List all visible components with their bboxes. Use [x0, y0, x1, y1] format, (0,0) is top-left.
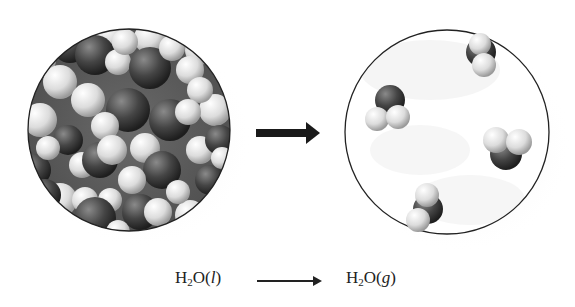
- long-arrow-right-icon: [257, 280, 320, 282]
- arrow-right-icon: [256, 122, 320, 144]
- phase-change-illustration: [0, 0, 575, 307]
- water-vapor-panel: [345, 30, 572, 253]
- liquid-water-panel: [19, 20, 252, 248]
- reactant-formula: H2O(l): [175, 268, 221, 288]
- product-formula: H2O(g): [346, 268, 396, 288]
